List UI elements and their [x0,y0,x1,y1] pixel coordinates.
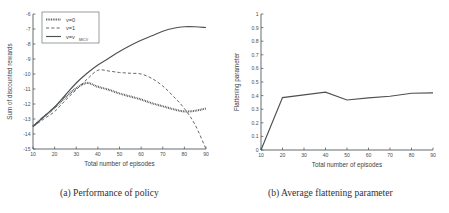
legend-label-vmicv: v=v [66,34,75,40]
x-tick-label: 80 [409,152,415,158]
y-tick-label: -6 [26,11,31,17]
chart-panel-performance-of-policy: -15-14-13-12-11-10-9-8-7-6 1020304050607… [0,0,224,180]
x-tick-label: 70 [387,152,393,158]
y-tick-label: -7 [26,26,31,32]
x-tick-label: 50 [117,151,123,157]
y-tick-label: -12 [23,101,31,107]
y-tick-label: -8 [26,41,31,47]
x-tick-label: 50 [344,152,350,158]
y-ticks-a: -15-14-13-12-11-10-9-8-7-6 [23,11,35,152]
y-tick-label: -10 [23,71,31,77]
y-tick-label: 0.2 [251,120,258,126]
y-tick-label: -9 [26,56,31,62]
y-tick-label: -11 [24,86,31,92]
y-tick-label: 1 [256,11,259,17]
y-tick-label: 0.6 [251,65,258,71]
legend-label-v0: v=0 [66,17,75,23]
x-tick-label: 20 [280,152,286,158]
x-tick-label: 60 [138,151,144,157]
series-path-solid [261,92,433,150]
x-tick-label: 40 [95,151,101,157]
x-tick-label: 60 [366,152,372,158]
x-tick-label: 90 [430,152,436,158]
series-path-dashed [33,70,206,149]
x-ticks-a: 102030405060708090 [30,147,209,158]
performance-of-policy-plot: -15-14-13-12-11-10-9-8-7-6 1020304050607… [0,0,224,180]
x-tick-label: 90 [203,151,209,157]
y-ticks-b: 00.10.20.30.40.50.60.70.80.91 [251,11,263,153]
axes-group-b [261,14,433,150]
x-tick-label: 70 [160,151,166,157]
y-tick-label: 0.5 [251,79,258,85]
x-tick-label: 80 [182,151,188,157]
y-tick-label: 0.8 [251,38,258,44]
series-group-b [261,92,433,150]
x-axis-title-a: Total number of episodes [84,160,154,168]
series-group-a [33,27,206,149]
x-axis-title-b: Total number of episodes [312,161,382,169]
x-tick-label: 30 [301,152,307,158]
y-axis-title-a: Sum of discounted rewards [6,43,13,119]
x-tick-label: 30 [73,151,79,157]
series-path-dotted [33,83,206,127]
average-flattening-parameter-plot: 00.10.20.30.40.50.60.70.80.91 1020304050… [225,0,449,180]
y-tick-label: -14 [23,131,31,137]
legend-a: v=0 v=1 v=v MICV [42,12,99,43]
x-tick-label: 20 [52,151,58,157]
caption-panel-b: (b) Average flattening parameter [268,187,393,198]
x-ticks-b: 102030405060708090 [258,148,436,159]
y-tick-label: -13 [23,116,31,122]
figure-container: -15-14-13-12-11-10-9-8-7-6 1020304050607… [0,0,449,213]
y-tick-label: 0.3 [251,106,258,112]
chart-panel-average-flattening-parameter: 00.10.20.30.40.50.60.70.80.91 1020304050… [225,0,449,180]
y-tick-label: 0.1 [251,133,258,139]
caption-row: (a) Performance of policy (b) Average fl… [0,181,449,213]
y-axis-title-b: Flattening parameter [233,53,241,111]
legend-label-vmicv-subscript: MICV [79,38,89,42]
y-tick-label: 0.4 [251,93,258,99]
x-tick-label: 40 [323,152,329,158]
x-tick-label: 10 [30,151,36,157]
legend-label-v1: v=1 [66,25,75,31]
x-tick-label: 10 [258,152,264,158]
y-tick-label: 0.9 [251,25,258,31]
caption-panel-a: (a) Performance of policy [60,187,159,198]
y-tick-label: 0.7 [251,52,258,58]
